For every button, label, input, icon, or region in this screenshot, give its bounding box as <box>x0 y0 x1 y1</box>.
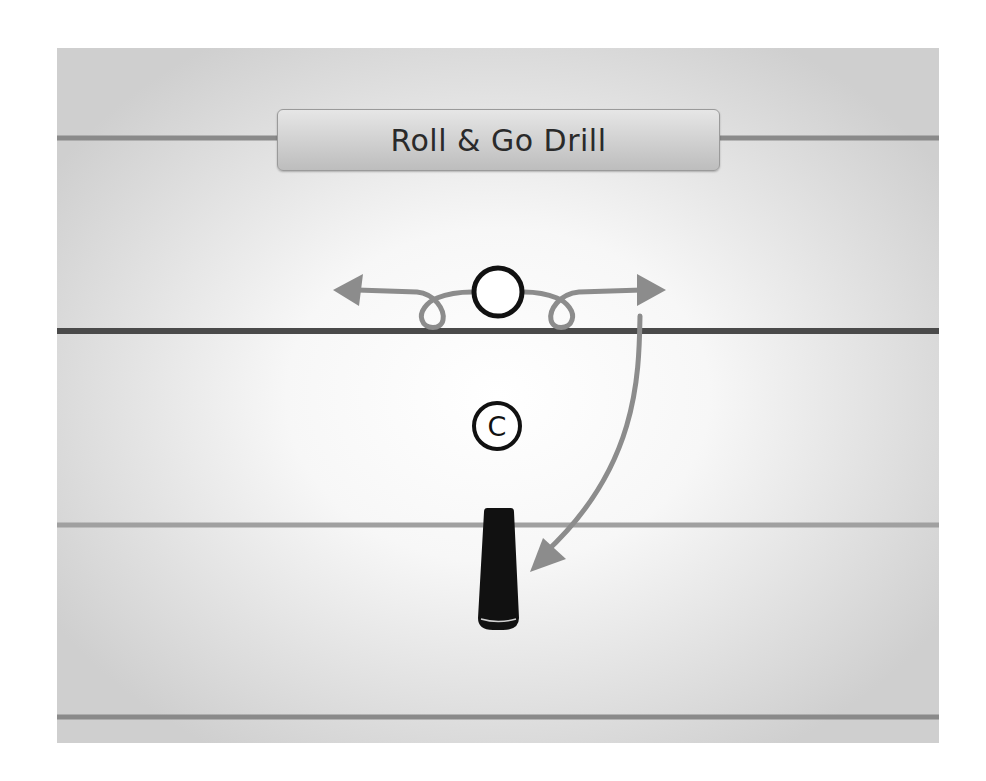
left-arrow-head <box>333 274 363 306</box>
go-arrow-head <box>530 538 566 572</box>
right-arrow-head <box>637 274 666 306</box>
player-circle <box>474 268 522 316</box>
title-banner: Roll & Go Drill <box>277 109 720 171</box>
coach-label: C <box>488 411 507 442</box>
cone <box>478 508 519 630</box>
go-path <box>545 316 640 553</box>
drill-title: Roll & Go Drill <box>390 123 606 158</box>
drill-diagram: C Roll & Go Drill <box>57 48 939 743</box>
left-roll-path <box>357 290 472 328</box>
right-roll-path <box>524 290 642 328</box>
